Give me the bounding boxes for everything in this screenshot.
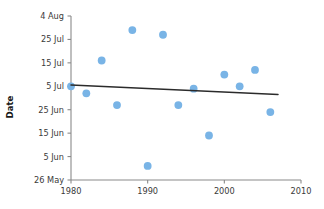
y-tick-label: 25 Jun [38,105,64,115]
x-tick-label: 2010 [291,186,312,196]
x-axis: 1980199020002010 [61,180,312,196]
y-tick-label: 25 Jul [41,34,64,44]
data-point [236,82,244,90]
x-tick-label: 1990 [137,186,158,196]
y-tick-label: 5 Jun [43,152,64,162]
data-points-layer [67,26,274,170]
y-tick-label: 26 May [34,175,64,185]
data-point [266,108,274,116]
data-point [220,71,228,79]
y-tick-label: 15 Jun [38,128,64,138]
data-point [159,31,167,39]
x-tick-label: 2000 [214,186,235,196]
x-tick-label: 1980 [61,186,82,196]
data-point [205,132,213,140]
data-point [113,101,121,109]
y-tick-label: 15 Jul [41,58,64,68]
data-point [174,101,182,109]
data-point [67,82,75,90]
trend-line [71,85,278,94]
data-point [98,57,106,65]
y-axis-title: Date [5,95,15,118]
y-tick-label: 4 Aug [40,11,64,21]
trendline-layer [71,85,278,94]
y-axis: 4 Aug25 Jul15 Jul5 Jul25 Jun15 Jun5 Jun2… [34,11,71,185]
data-point [144,162,152,170]
data-point [251,66,259,74]
data-point [128,26,136,34]
y-tick-label: 5 Jul [46,81,64,91]
chart-canvas: 4 Aug25 Jul15 Jul5 Jul25 Jun15 Jun5 Jun2… [0,0,324,209]
scatter-chart: 4 Aug25 Jul15 Jul5 Jul25 Jun15 Jun5 Jun2… [0,0,324,209]
data-point [82,89,90,97]
